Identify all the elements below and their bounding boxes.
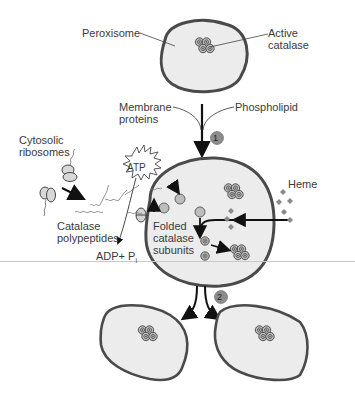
label-membrane-proteins-1: Membrane (119, 101, 172, 113)
mature-peroxisome (140, 21, 268, 92)
label-active-catalase-2: catalase (268, 39, 309, 51)
label-heme: Heme (288, 178, 317, 190)
daughter-peroxisome-left (101, 305, 188, 380)
label-folded-subunits-2: catalase (153, 232, 194, 244)
label-cytosolic-ribosomes-2: ribosomes (19, 146, 70, 158)
label-membrane-proteins-2: proteins (119, 113, 158, 125)
cytosolic-ribosomes (40, 149, 82, 216)
label-folded-subunits-1: Folded (153, 220, 187, 232)
label-catalase-polypeptides-2: polypeptides (57, 232, 119, 244)
label-peroxisome: Peroxisome (82, 27, 140, 39)
label-catalase-polypeptides-1: Catalase (57, 220, 100, 232)
label-atp: ATP (127, 162, 146, 174)
label-folded-subunits-3: subunits (153, 244, 194, 256)
label-active-catalase-1: Active (268, 27, 298, 39)
step-1-arrows (173, 104, 234, 154)
divider-line (0, 261, 355, 262)
pi-subscript: i (135, 257, 137, 264)
daughter-peroxisome-right (215, 305, 308, 380)
adp-pi-text: ADP+ P (96, 250, 135, 262)
step-1-number: 1 (213, 132, 218, 144)
label-cytosolic-ribosomes-1: Cytosolic (19, 134, 64, 146)
diagram-canvas (0, 0, 355, 394)
label-adp-pi: ADP+ Pi (96, 250, 137, 267)
label-phospholipid: Phospholipid (235, 101, 298, 113)
step-2-number: 2 (217, 291, 222, 303)
